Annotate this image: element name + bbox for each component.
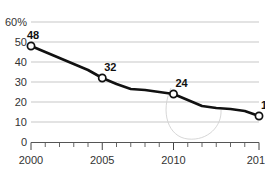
x-axis-tick-label: 2005	[90, 154, 114, 166]
y-axis-tick-label: 0	[21, 136, 27, 148]
x-axis-tick-label: 2016	[247, 154, 265, 166]
y-axis-tick-label: 30	[15, 76, 27, 88]
data-point-label: 48	[27, 29, 39, 41]
data-point-marker	[99, 74, 106, 81]
y-axis-tick-label: 20	[15, 96, 27, 108]
y-axis-tick-label: 10	[15, 116, 27, 128]
data-point-marker	[255, 112, 262, 119]
data-point-marker	[170, 90, 177, 97]
series-line-value	[31, 46, 259, 116]
chart-plot-area: 0102030405060% 2000200520102016 48322413	[0, 0, 265, 175]
data-point-label: 32	[104, 61, 116, 73]
y-axis-tick-label: 50	[15, 36, 27, 48]
y-axis-tick-label: 60%	[5, 16, 27, 28]
data-point-label: 24	[175, 77, 188, 89]
gridlines	[31, 22, 259, 122]
data-point-marker	[27, 42, 34, 49]
y-axis-labels: 0102030405060%	[5, 16, 27, 148]
x-axis-tick-label: 2000	[19, 154, 43, 166]
line-chart: 0102030405060% 2000200520102016 48322413	[0, 0, 265, 175]
x-axis-tick-label: 2010	[161, 154, 185, 166]
data-point-labels: 48322413	[27, 29, 265, 111]
x-axis-ticks	[31, 143, 259, 151]
x-axis-labels: 2000200520102016	[19, 154, 265, 166]
data-point-label: 13	[261, 99, 265, 111]
y-axis-tick-label: 40	[15, 56, 27, 68]
